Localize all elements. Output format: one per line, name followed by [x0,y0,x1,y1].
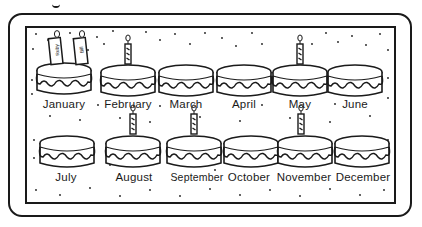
month-label-july: July [31,171,101,183]
cake-june [327,65,382,96]
cake-september [166,136,221,167]
month-label-august: August [99,171,169,183]
month-label-december: December [328,171,398,183]
cake-march [158,65,213,96]
candle-name-bill: Bill [78,46,85,53]
cake-october [223,136,278,167]
cake-july [39,136,94,167]
cake-february [100,65,155,96]
cake-drawings [0,0,422,227]
cake-november [277,136,332,167]
cake-august [105,136,160,167]
cake-january [36,63,91,94]
cake-april [216,65,271,96]
candle-name-ruby: Ruby [53,44,60,56]
cake-december [334,136,389,167]
cake-may [272,65,327,96]
month-label-june: June [320,98,390,110]
month-label-january: January [29,98,99,110]
